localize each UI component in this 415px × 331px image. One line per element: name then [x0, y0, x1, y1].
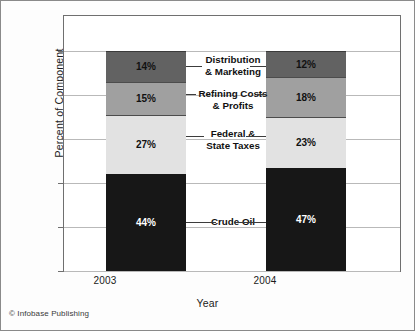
bar-2004-value-distribution: 12% [296, 59, 316, 70]
leader-refining-right [256, 94, 266, 95]
leader-refining-left [186, 94, 196, 95]
bar-2003-value-distribution: 14% [136, 61, 156, 72]
legend-refining-line2: & Profits [178, 100, 288, 112]
bar-2003[interactable]: 14% 15% 27% 44% [106, 51, 186, 271]
leader-distribution-right [250, 66, 266, 67]
legend-taxes-line1: Federal & [178, 128, 288, 140]
x-axis-label: Year [1, 297, 414, 309]
chart-figure: Percent of Component 100% 80% 60% 40% 20… [0, 0, 415, 331]
gridline-0 [64, 271, 400, 272]
x-tick-label-2003: 2003 [45, 275, 165, 286]
plot-area: 14% 15% 27% 44% 12% 18% 23% 47 [63, 15, 401, 272]
bar-2004[interactable]: 12% 18% 23% 47% [266, 51, 346, 271]
bar-2003-value-refining: 15% [136, 93, 156, 104]
bar-2003-segment-crude-oil[interactable]: 44% [106, 174, 186, 271]
legend-federal-state-taxes: Federal & State Taxes [178, 128, 288, 152]
bar-2003-value-taxes: 27% [136, 139, 156, 150]
leader-crude-oil-left [186, 222, 216, 223]
bar-2004-value-refining: 18% [296, 92, 316, 103]
copyright-credit: © Infobase Publishing [9, 309, 89, 318]
leader-crude-oil-right [234, 222, 266, 223]
bar-2003-segment-taxes[interactable]: 27% [106, 115, 186, 174]
leader-taxes-right [246, 136, 266, 137]
bar-2004-value-taxes: 23% [296, 137, 316, 148]
legend-distribution-line2: & Marketing [178, 66, 288, 78]
leader-taxes-left [186, 136, 204, 137]
legend-distribution-line1: Distribution [178, 54, 288, 66]
bar-2003-segment-refining[interactable]: 15% [106, 82, 186, 115]
bar-2004-value-crude-oil: 47% [296, 214, 316, 225]
legend-refining-costs-profits: Refining Costs & Profits [178, 88, 288, 112]
leader-distribution-left [186, 66, 202, 67]
x-tick-label-2004: 2004 [205, 275, 325, 286]
bar-2003-value-crude-oil: 44% [136, 217, 156, 228]
bar-2003-segment-distribution[interactable]: 14% [106, 51, 186, 82]
legend-taxes-line2: State Taxes [178, 140, 288, 152]
